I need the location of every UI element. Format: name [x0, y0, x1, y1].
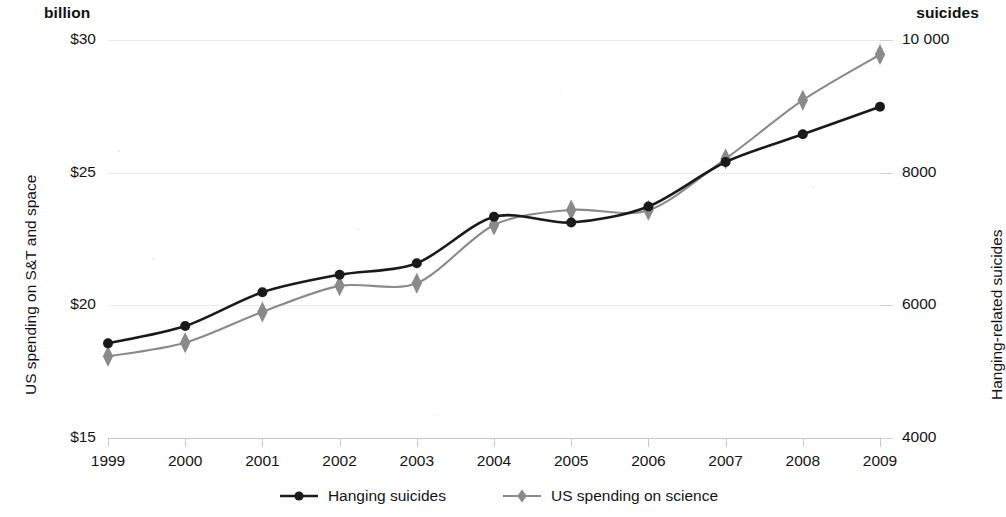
circle-marker [721, 157, 731, 167]
x-axis-tick-label: 2005 [554, 452, 588, 470]
diamond-marker [257, 301, 267, 322]
y-axis-left-tick-label: $15 [70, 428, 96, 446]
x-axis-tick-label: 2006 [631, 452, 665, 470]
circle-marker [180, 321, 190, 331]
y-axis-left-tick-label: $25 [70, 163, 96, 181]
diamond-marker [798, 90, 808, 111]
x-axis-tick [108, 438, 109, 447]
x-axis-tick-label: 2008 [786, 452, 820, 470]
circle-marker [279, 489, 319, 503]
circle-marker [257, 287, 267, 297]
y-axis-right-title: Hanging-related suicides [988, 229, 1006, 400]
circle-marker [412, 258, 422, 268]
y-axis-right-tick [880, 173, 893, 174]
diamond-marker [412, 273, 422, 294]
circle-marker [335, 270, 345, 280]
x-axis-tick [185, 438, 186, 447]
y-axis-right-tick [880, 305, 893, 306]
scan-artifact [700, 330, 701, 331]
right-axis-unit-label: suicides [916, 4, 979, 22]
legend-item-hanging-suicides[interactable]: Hanging suicides [279, 487, 446, 505]
x-axis-tick [726, 438, 727, 447]
scan-artifact [560, 92, 561, 93]
x-axis-tick [340, 438, 341, 447]
x-axis-tick [417, 438, 418, 447]
y-axis-left-title: US spending on S&T and space [22, 175, 40, 395]
x-axis-tick [803, 438, 804, 447]
scan-artifact [437, 415, 438, 416]
y-axis-right-tick [880, 438, 893, 439]
legend-label: US spending on science [551, 487, 718, 505]
x-axis-tick [262, 438, 263, 447]
circle-marker [566, 218, 576, 228]
us-spending-on-science-group [103, 44, 885, 367]
circle-marker [103, 338, 113, 348]
y-axis-left-tick-label: $20 [70, 295, 96, 313]
x-axis-tick-label: 2003 [400, 452, 434, 470]
diamond-marker [875, 44, 885, 65]
x-axis-tick [494, 438, 495, 447]
scan-artifact [245, 62, 246, 63]
diamond-marker [566, 199, 576, 220]
x-axis-tick-label: 2000 [168, 452, 202, 470]
plot-area: $30$25$20$15 10 000800060004000 19992000… [108, 40, 880, 438]
scan-artifact [118, 150, 120, 152]
x-axis-tick-label: 2009 [863, 452, 897, 470]
diamond-marker [502, 489, 542, 503]
series-lines [108, 40, 880, 438]
y-axis-left-tick-label: $30 [70, 30, 96, 48]
x-axis-tick-label: 2007 [708, 452, 742, 470]
x-axis-tick [880, 438, 881, 447]
chart-legend: Hanging suicidesUS spending on science [0, 487, 997, 505]
diamond-marker [180, 332, 190, 353]
circle-marker [489, 212, 499, 222]
scan-artifact [300, 300, 302, 302]
x-axis-tick-label: 1999 [91, 452, 125, 470]
scan-artifact [812, 186, 814, 188]
x-axis-tick-label: 2004 [477, 452, 511, 470]
x-axis-tick-label: 2001 [245, 452, 279, 470]
circle-marker [643, 201, 653, 211]
legend-item-us-spending[interactable]: US spending on science [502, 487, 718, 505]
y-axis-right-tick-label: 6000 [902, 295, 936, 313]
left-axis-unit-label: billion [44, 4, 90, 22]
us-spending-on-science-line [108, 55, 880, 357]
diamond-marker [103, 346, 113, 367]
y-axis-right-tick-label: 10 000 [902, 30, 949, 48]
y-axis-right-tick-label: 8000 [902, 163, 936, 181]
x-axis-tick [648, 438, 649, 447]
scan-artifact [152, 258, 154, 260]
circle-marker [798, 129, 808, 139]
y-axis-right-tick-label: 4000 [902, 428, 936, 446]
y-axis-right-tick [880, 40, 893, 41]
scan-artifact [357, 228, 359, 230]
circle-marker [875, 102, 885, 112]
x-axis-tick-label: 2002 [322, 452, 356, 470]
legend-label: Hanging suicides [328, 487, 446, 505]
x-axis-tick [571, 438, 572, 447]
scan-artifact [640, 470, 641, 471]
